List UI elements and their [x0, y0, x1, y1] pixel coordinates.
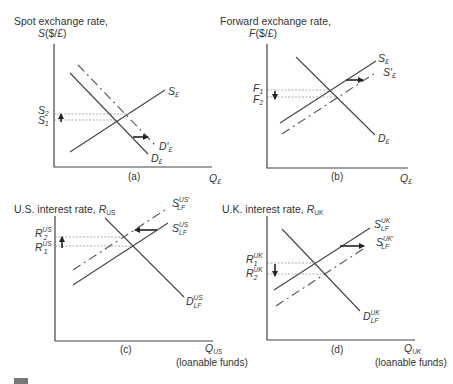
panel-c-xlabel-note: (loanable funds)	[176, 357, 248, 368]
panel-a-new-demand-curve	[78, 65, 155, 145]
panel-a-supply-label: S£	[168, 85, 179, 98]
panel-c-caption: (c)	[120, 344, 132, 355]
panel-c-new-supply-curve	[73, 208, 168, 270]
panel-b-ylabel: Forward exchange rate,	[220, 15, 331, 27]
panel-d-new-supply-curve	[276, 247, 366, 306]
four-panel-diagram: Spot exchange rate, S($/£) Q£ (a) S£ D£ …	[0, 0, 453, 384]
figure-marker	[14, 378, 28, 384]
panel-b-demand-label: D£	[378, 132, 390, 145]
panel-d-level-r2: RUK2	[246, 266, 263, 281]
panel-d-xlabel: QUK	[404, 342, 422, 355]
panel-d-uk-interest: U.K. interest rate, RUK QUK (loanable fu…	[222, 203, 447, 368]
panel-c-supply-label: SUSLF	[172, 221, 189, 236]
panel-b-forward-exchange: Forward exchange rate, F($/£) Q£ (b) S£ …	[220, 15, 412, 185]
panel-b-ylabel-unit: F($/£)	[249, 27, 277, 39]
panel-c-level-r2: RUS2	[35, 226, 52, 241]
panel-a-ylabel: Spot exchange rate,	[14, 15, 108, 27]
panel-b-new-supply-label: S′£	[383, 66, 396, 79]
panel-a-supply-curve	[70, 90, 165, 152]
panel-c-new-supply-label: SUS′LF	[172, 196, 190, 211]
panel-c-level-r1: RUS1	[35, 240, 52, 255]
panel-c-demand-label: DUSLF	[186, 294, 203, 309]
panel-c-us-interest: U.S. interest rate, RUS QUS (loanable fu…	[14, 196, 248, 368]
panel-a-caption: (a)	[128, 171, 140, 182]
panel-d-caption: (d)	[331, 344, 343, 355]
panel-b-new-supply-curve	[282, 73, 375, 134]
panel-c-axes	[55, 216, 213, 341]
panel-d-supply-label: SUKLF	[374, 217, 391, 232]
panel-d-supply-curve	[274, 228, 370, 290]
panel-a-new-demand-label: D′£	[159, 140, 173, 153]
panel-d-level-r1: RUK1	[246, 252, 263, 267]
panel-a-demand-curve	[70, 73, 148, 154]
panel-d-xlabel-note: (loanable funds)	[375, 357, 447, 368]
panel-a-xlabel: Q£	[209, 172, 221, 185]
panel-b-caption: (b)	[331, 171, 343, 182]
panel-b-supply-label: S£	[378, 52, 389, 65]
panel-a-demand-label: D£	[151, 152, 163, 165]
panel-d-ylabel: U.K. interest rate, RUK	[222, 203, 324, 216]
panel-c-xlabel: QUS	[205, 342, 223, 355]
panel-b-xlabel: Q£	[400, 172, 412, 185]
panel-a-axes	[54, 44, 212, 167]
panel-c-ylabel: U.S. interest rate, RUS	[14, 203, 116, 216]
panel-a-ylabel-unit: S($/£)	[38, 27, 67, 39]
panel-d-new-supply-label: SUK′LF	[376, 235, 394, 250]
panel-b-supply-curve	[280, 61, 376, 123]
panel-c-supply-curve	[73, 223, 168, 285]
panel-d-demand-label: DUKLF	[363, 309, 380, 324]
panel-a-spot-exchange: Spot exchange rate, S($/£) Q£ (a) S£ D£ …	[14, 15, 221, 185]
panel-d-demand-curve	[282, 229, 360, 311]
